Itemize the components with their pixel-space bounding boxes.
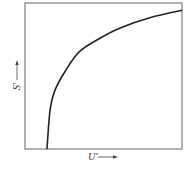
y-axis-label-group: S' [11, 60, 22, 90]
y-axis-label: S' [11, 82, 22, 90]
y-axis-arrow-icon [15, 60, 18, 65]
x-axis-label: U' [88, 151, 98, 162]
x-axis-arrow-icon [113, 155, 118, 158]
chart: S' U' [0, 0, 192, 171]
x-axis-label-group: U' [88, 151, 118, 162]
data-curve [47, 10, 182, 149]
